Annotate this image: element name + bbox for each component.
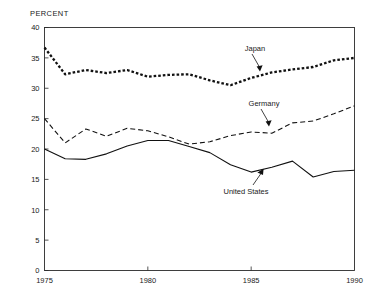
y-tick-label-10: 10 xyxy=(31,206,39,215)
germany-arrow-head xyxy=(266,120,272,126)
x-tick-label-1990: 1990 xyxy=(346,276,363,285)
series-label-germany: Germany xyxy=(249,99,280,108)
series-line-germany xyxy=(45,106,355,144)
x-tick-label-1980: 1980 xyxy=(139,276,156,285)
annotation-germany: Germany xyxy=(249,99,280,127)
chart-container: PERCENT 0510152025303540 197519801985199… xyxy=(0,0,372,296)
x-tick-label-1975: 1975 xyxy=(36,276,53,285)
us-arrow-line xyxy=(253,172,262,185)
y-tick-label-40: 40 xyxy=(31,23,39,32)
annotation-united-states: United States xyxy=(223,169,268,196)
y-tick-label-20: 20 xyxy=(31,145,39,154)
x-tick-label-1985: 1985 xyxy=(243,276,260,285)
y-tick-label-0: 0 xyxy=(35,266,39,275)
y-tick-label-35: 35 xyxy=(31,54,39,63)
series-label-japan: Japan xyxy=(245,44,265,53)
annotation-japan: Japan xyxy=(245,44,265,72)
line-chart: PERCENT 0510152025303540 197519801985199… xyxy=(0,0,372,296)
y-tick-label-5: 5 xyxy=(35,236,39,245)
series-line-japan xyxy=(45,48,355,86)
y-tick-label-15: 15 xyxy=(31,175,39,184)
y-tick-label-30: 30 xyxy=(31,84,39,93)
x-axis-ticks xyxy=(148,267,251,271)
germany-arrow-line xyxy=(261,109,269,123)
y-axis-title: PERCENT xyxy=(30,9,69,18)
japan-arrow-head xyxy=(257,65,263,71)
japan-arrow-line xyxy=(252,54,260,68)
series-line-united-states xyxy=(45,141,355,177)
series-label-united-states: United States xyxy=(223,187,268,196)
x-axis-tick-labels: 1975198019851990 xyxy=(36,276,363,285)
plot-frame xyxy=(45,28,355,271)
y-axis-tick-labels: 0510152025303540 xyxy=(31,23,39,275)
y-tick-label-25: 25 xyxy=(31,114,39,123)
